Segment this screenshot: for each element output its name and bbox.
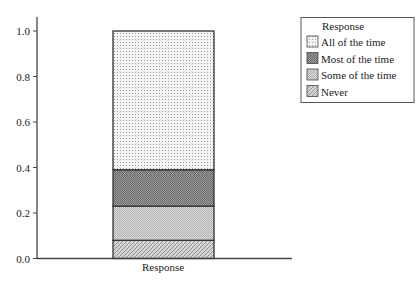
y-tick-label: 1.0 [16,25,30,37]
legend-title: Response [322,20,364,32]
y-tick-label: 0.0 [16,253,30,265]
legend-swatch [307,69,318,80]
stacked-bar [113,31,214,259]
bar-segment-most-of-the-time [113,170,214,206]
bar-segment-never [113,240,214,258]
x-tick-label: Response [142,261,184,273]
legend-swatch [307,36,318,47]
legend: Response All of the timeMost of the time… [301,18,414,103]
y-tick-label: 0.8 [16,71,30,83]
chart-canvas: 0.00.20.40.60.81.0 Response Response All… [0,0,418,284]
legend-swatch [307,53,318,64]
legend-label: Some of the time [321,69,397,81]
bar-segment-all-of-the-time [113,31,214,170]
legend-label: All of the time [321,36,386,48]
legend-label: Most of the time [321,53,394,65]
y-tick-label: 0.4 [16,162,30,174]
legend-label: Never [321,86,348,98]
y-ticks: 0.00.20.40.60.81.0 [16,25,37,265]
y-tick-label: 0.6 [16,116,30,128]
legend-swatch [307,86,318,97]
y-tick-label: 0.2 [16,207,30,219]
bar-segment-some-of-the-time [113,206,214,240]
